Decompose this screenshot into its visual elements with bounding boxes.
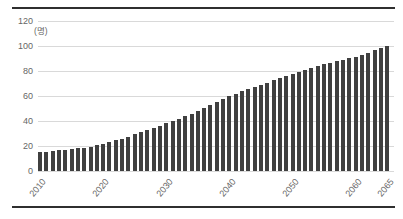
bar-2022 — [114, 140, 118, 171]
x-tick-label: 2050 — [280, 176, 302, 199]
bar-2026 — [139, 132, 143, 171]
bar-2045 — [259, 85, 263, 171]
y-tick-label: 60 — [0, 91, 33, 102]
bar-2023 — [120, 139, 124, 172]
bar-2016 — [76, 148, 80, 171]
bars-container — [38, 21, 390, 171]
bar-2041 — [234, 94, 238, 172]
bottom-rule — [12, 206, 395, 208]
y-tick-label: 80 — [0, 66, 33, 77]
bar-2027 — [145, 130, 149, 171]
bar-2019 — [95, 145, 99, 171]
bar-2035 — [196, 111, 200, 171]
top-rule — [12, 7, 395, 9]
bar-2057 — [335, 61, 339, 171]
bar-2032 — [177, 119, 181, 172]
bar-2038 — [215, 102, 219, 171]
x-tick-label: 2060 — [343, 176, 365, 199]
bar-2028 — [152, 128, 156, 171]
bar-2049 — [284, 76, 288, 171]
bar-chart-figure: 020406080100120 (명) 20102020203020402050… — [0, 0, 403, 219]
bar-2014 — [63, 150, 67, 171]
y-tick-label: 120 — [0, 16, 33, 27]
x-tick-label: 2030 — [153, 176, 175, 199]
y-tick-label: 100 — [0, 41, 33, 52]
y-tick-label: 40 — [0, 116, 33, 127]
bar-2044 — [253, 87, 257, 171]
bar-2012 — [51, 151, 55, 171]
gridline — [38, 171, 394, 172]
bar-2021 — [107, 142, 111, 171]
bar-2055 — [322, 64, 326, 171]
bar-2031 — [171, 121, 175, 171]
bar-2060 — [354, 57, 358, 171]
bar-2017 — [82, 148, 86, 172]
bar-2025 — [133, 134, 137, 171]
bar-2056 — [328, 63, 332, 171]
bar-2034 — [190, 114, 194, 172]
bar-2030 — [164, 123, 168, 171]
bar-2053 — [309, 68, 313, 171]
bar-2024 — [126, 137, 130, 172]
bar-2058 — [341, 60, 345, 172]
bar-2059 — [347, 58, 351, 171]
bar-2054 — [316, 66, 320, 171]
bar-2042 — [240, 91, 244, 171]
bar-2020 — [101, 144, 105, 171]
bar-2029 — [158, 126, 162, 171]
bar-2010 — [38, 152, 42, 171]
bar-2011 — [44, 152, 48, 171]
bar-2065 — [385, 46, 389, 172]
bar-2047 — [272, 80, 276, 171]
bar-2050 — [291, 74, 295, 171]
y-tick-label: 20 — [0, 141, 33, 152]
bar-2043 — [246, 89, 250, 171]
bar-2064 — [379, 48, 383, 171]
x-tick-label: 2040 — [216, 176, 238, 199]
bar-2037 — [208, 105, 212, 171]
bar-2063 — [373, 50, 377, 171]
bar-2040 — [227, 96, 231, 171]
bar-2062 — [366, 53, 370, 171]
x-tick-label: 2020 — [90, 176, 112, 199]
bar-2015 — [70, 149, 74, 171]
bar-2052 — [303, 70, 307, 171]
y-tick-label: 0 — [0, 166, 33, 177]
bar-2061 — [360, 55, 364, 171]
x-tick-label: 2010 — [27, 176, 49, 199]
bar-2039 — [221, 99, 225, 171]
bar-2018 — [89, 147, 93, 172]
bar-2036 — [202, 108, 206, 171]
bar-2033 — [183, 116, 187, 171]
bar-2046 — [265, 83, 269, 172]
x-tick-label: 2065 — [375, 176, 397, 199]
bar-2051 — [297, 72, 301, 171]
bar-2048 — [278, 78, 282, 171]
bar-2013 — [57, 150, 61, 171]
